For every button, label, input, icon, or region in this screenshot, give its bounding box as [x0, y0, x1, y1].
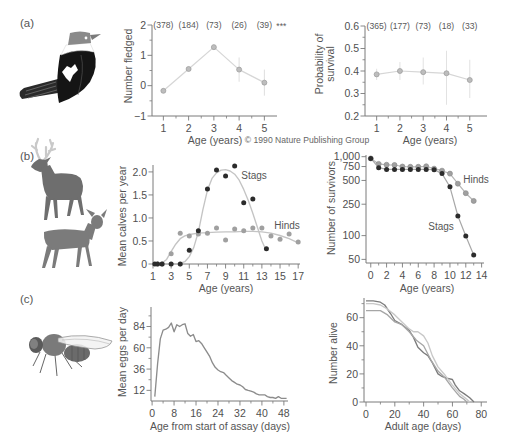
significance-marker: ***	[276, 21, 287, 31]
x-tick-label: 1	[160, 122, 166, 134]
x-tick-label: 7	[205, 270, 211, 282]
data-point	[268, 233, 273, 238]
data-point	[223, 174, 228, 179]
data-point	[392, 162, 397, 167]
x-tick-label: 80	[475, 408, 487, 420]
b1-y-axis-title: Mean calves per year	[117, 166, 128, 266]
y-tick-label: 0.6	[344, 20, 359, 32]
data-point	[232, 227, 237, 232]
data-line	[371, 158, 474, 255]
sample-size-label: (39)	[257, 20, 272, 30]
x-tick-label: 32	[234, 407, 246, 419]
data-point	[376, 165, 381, 170]
x-tick-label: 4	[400, 269, 406, 281]
data-point	[155, 262, 160, 267]
data-point	[455, 181, 460, 186]
series-hinds	[368, 156, 476, 204]
data-point	[264, 246, 269, 251]
y-tick-label: 0.5	[344, 42, 359, 54]
x-tick-label: 17	[292, 270, 304, 282]
x-tick-label: 4	[444, 122, 450, 134]
data-point	[232, 163, 237, 168]
sample-size-label: (18)	[439, 21, 454, 31]
data-point	[455, 214, 460, 219]
y-tick-label: 40	[346, 340, 358, 352]
x-tick-label: 5	[186, 270, 192, 282]
data-line	[366, 311, 467, 402]
panel-label-a: (a)	[20, 18, 34, 30]
a2-y-axis-title: Probability of survival	[314, 34, 336, 95]
data-point	[250, 197, 255, 202]
x-tick-label: 13	[256, 270, 268, 282]
series-stags	[368, 156, 476, 257]
series-series-2	[366, 304, 470, 402]
y-tick-label: 50	[348, 253, 360, 265]
b2-x-axis-title: Age (years)	[400, 283, 454, 294]
x-tick-label: 3	[420, 122, 426, 134]
x-tick-label: 12	[460, 269, 472, 281]
x-tick-label: 1	[150, 270, 156, 282]
data-line	[153, 231, 298, 264]
sample-size-label: (177)	[390, 21, 410, 31]
x-tick-label: 9	[223, 270, 229, 282]
data-point	[161, 88, 166, 93]
x-tick-label: 14	[476, 269, 488, 281]
data-point	[223, 238, 228, 243]
b2-hinds-label: Hinds	[463, 175, 489, 185]
y-tick-label: 1.0	[132, 212, 147, 224]
y-tick-label: 20	[346, 368, 358, 380]
x-tick-label: 6	[415, 269, 421, 281]
b2-y-axis-title: Number of survivors	[326, 161, 337, 255]
data-point	[259, 226, 264, 231]
y-tick-label: 100	[342, 229, 360, 241]
data-point	[392, 167, 397, 172]
data-point	[384, 167, 389, 172]
data-point	[241, 228, 246, 233]
panel-label-b: (b)	[20, 151, 34, 163]
c2-x-axis-title: Adult age (days)	[385, 421, 461, 432]
data-point	[214, 168, 219, 173]
sample-size-label: (26)	[231, 20, 246, 30]
x-tick-label: 11	[238, 270, 249, 282]
x-tick-label: 5	[467, 122, 473, 134]
data-point	[447, 184, 452, 189]
data-point	[463, 233, 468, 238]
axis-lines	[365, 26, 487, 116]
y-tick-label: 12	[133, 384, 145, 396]
data-line	[366, 304, 470, 402]
data-point	[374, 72, 379, 77]
x-tick-label: 40	[256, 407, 268, 419]
y-tick-label: 60	[346, 311, 358, 323]
x-tick-label: 0	[368, 269, 374, 281]
data-line	[155, 323, 287, 398]
x-tick-label: 8	[431, 269, 437, 281]
data-point	[400, 167, 405, 172]
data-point	[205, 186, 210, 191]
data-point	[237, 67, 242, 72]
series-series-3	[366, 311, 467, 402]
data-point	[178, 262, 183, 267]
data-point	[471, 252, 476, 257]
y-tick-label: 1.5	[132, 189, 147, 201]
data-point	[287, 232, 292, 237]
sample-size-label: (73)	[416, 21, 431, 31]
c1-y-axis-title: Mean eggs per day	[117, 307, 128, 397]
x-tick-label: 15	[274, 270, 286, 282]
data-point	[440, 171, 445, 176]
x-tick-label: 2	[186, 122, 192, 134]
data-point	[447, 171, 452, 176]
b1-x-axis-title: Age (years)	[199, 283, 253, 294]
data-point	[196, 228, 201, 233]
y-tick-label: 0.3	[344, 87, 359, 99]
data-point	[397, 69, 402, 74]
x-tick-label: 3	[211, 122, 217, 134]
x-tick-label: 4	[236, 122, 242, 134]
data-point	[471, 198, 476, 203]
data-point	[278, 237, 283, 242]
data-point	[178, 231, 183, 236]
y-tick-label: 1	[140, 49, 146, 61]
data-point	[169, 262, 174, 267]
y-tick-label: 2	[140, 19, 146, 31]
sample-size-label: (365)	[367, 21, 387, 31]
y-tick-label: 36	[133, 363, 145, 375]
